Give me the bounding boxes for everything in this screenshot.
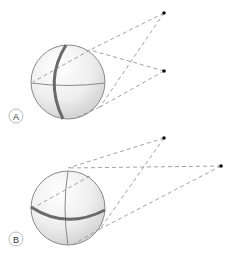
panel-a: A <box>9 11 166 123</box>
label-a: A <box>13 112 19 122</box>
sphere-a <box>31 45 105 119</box>
sphere-b <box>31 171 105 245</box>
point-a-bottom <box>162 69 166 73</box>
point-b-right <box>219 164 223 168</box>
diagram-canvas: A B <box>0 0 234 257</box>
point-a-top <box>162 11 166 15</box>
label-b: B <box>13 235 19 245</box>
point-b-top <box>162 136 166 140</box>
panel-b: B <box>9 136 223 246</box>
